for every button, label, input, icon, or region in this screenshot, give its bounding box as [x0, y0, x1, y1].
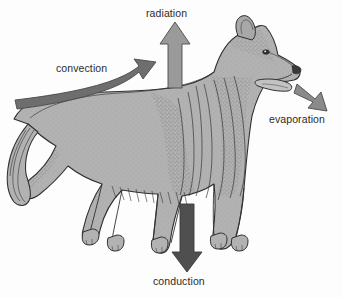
diagram-canvas	[0, 0, 343, 298]
label-conduction: conduction	[153, 275, 205, 287]
dog-nose	[292, 66, 301, 74]
heat-transfer-diagram: radiation convection evaporation conduct…	[0, 0, 343, 298]
label-evaporation: evaporation	[269, 113, 325, 125]
dog-eye	[263, 50, 270, 55]
label-convection: convection	[56, 62, 107, 74]
dog-eye-highlight	[264, 51, 266, 53]
label-radiation: radiation	[146, 7, 187, 19]
